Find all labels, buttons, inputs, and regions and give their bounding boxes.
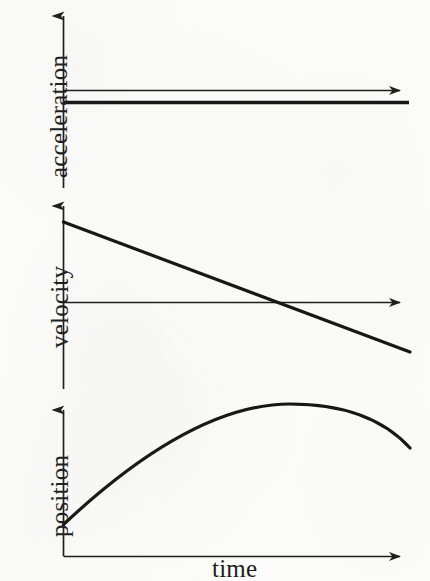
velocity-panel — [64, 206, 411, 389]
position-panel — [64, 404, 411, 557]
acceleration-axis-label: acceleration — [46, 55, 71, 178]
position-data-curve — [64, 404, 411, 525]
acceleration-panel — [64, 16, 410, 188]
velocity-data-line — [64, 222, 411, 352]
position-axis-label: position — [47, 455, 72, 537]
time-axis-label: time — [212, 556, 257, 581]
velocity-axis-label: velocity — [47, 266, 72, 348]
kinematics-figure: acceleration velocity position time — [0, 0, 430, 581]
